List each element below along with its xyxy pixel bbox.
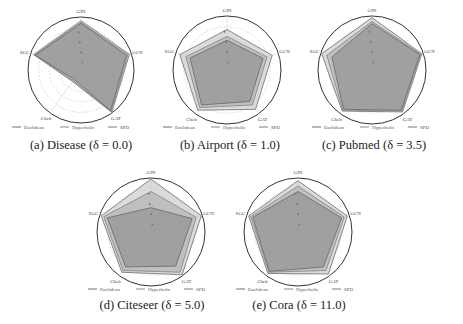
axis-label-gat: GAT (329, 279, 339, 284)
radial-tick-marker (150, 213, 152, 215)
caption-pubmed: (c) Pubmed (δ = 3.5) (305, 138, 443, 153)
radial-tick-marker (148, 193, 150, 195)
radial-tick-marker (226, 51, 228, 53)
radar-chart-pubmed: GINGCNGATChebSGCEuclideanHyperbolicSPD (305, 0, 463, 140)
radial-tick-marker (369, 31, 371, 33)
radar-chart-citeseer: GINGCNGATChebSGCEuclideanHyperbolicSPD (80, 162, 240, 302)
radial-tick-marker (297, 213, 299, 215)
axis-label-sgc: SGC (20, 50, 30, 55)
legend-label-spd: SPD (420, 125, 430, 130)
legend-label-euclidean: Euclidean (324, 125, 344, 130)
axis-label-gcn: GCN (350, 211, 361, 216)
radial-tick-marker (372, 61, 374, 63)
legend-label-spd: SPD (196, 287, 206, 292)
radial-tick-marker (80, 52, 82, 54)
radial-tick-marker (295, 193, 297, 195)
axis-label-gin: GIN (77, 9, 86, 14)
axis-label-gat: GAT (403, 117, 413, 122)
axis-label-gcn: GCN (424, 49, 435, 54)
radial-tick-marker (151, 223, 153, 225)
axis-label-gcn: GCN (203, 211, 214, 216)
axis-label-sgc: SGC (89, 211, 99, 216)
axis-label-cheb: Cheb (110, 279, 121, 284)
radial-tick-marker (298, 223, 300, 225)
radial-tick-marker (225, 41, 227, 43)
axis-label-cheb: Cheb (41, 116, 52, 121)
axis-label-sgc: SGC (310, 49, 320, 54)
legend-label-euclidean: Euclidean (175, 125, 195, 130)
axis-label-gin: GIN (147, 170, 156, 175)
axis-label-sgc: SGC (165, 49, 175, 54)
legend-label-spd: SPD (344, 287, 354, 292)
legend-label-euclidean: Euclidean (24, 125, 44, 130)
radial-tick-marker (78, 31, 80, 33)
axis-label-gin: GIN (223, 8, 232, 13)
caption-airport: (b) Airport (δ = 1.0) (155, 138, 305, 153)
axis-label-gat: GAT (258, 117, 268, 122)
radar-panel-airport: GINGCNGATChebSGCEuclideanHyperbolicSPD (… (155, 0, 305, 160)
caption-cora: (e) Cora (δ = 11.0) (230, 298, 368, 313)
axis-label-gat: GAT (111, 116, 121, 121)
legend-label-spd: SPD (120, 125, 130, 130)
axis-label-gcn: GCN (279, 49, 290, 54)
radial-tick-marker (79, 41, 81, 43)
axis-label-gin: GIN (294, 170, 303, 175)
radial-tick-marker (149, 203, 151, 205)
radar-panel-citeseer: GINGCNGATChebSGCEuclideanHyperbolicSPD (… (80, 162, 240, 324)
legend-label-hyperbolic: Hyperbolic (296, 287, 319, 292)
radial-tick-marker (81, 62, 83, 64)
caption-citeseer: (d) Citeseer (δ = 5.0) (80, 298, 224, 313)
axis-label-cheb: Cheb (257, 279, 268, 284)
radar-panel-cora: GINGCNGATChebSGCEuclideanHyperbolicSPD (… (230, 162, 390, 324)
legend-label-hyperbolic: Hyperbolic (72, 125, 95, 130)
radial-tick-marker (224, 31, 226, 33)
legend-label-hyperbolic: Hyperbolic (148, 287, 171, 292)
legend-label-hyperbolic: Hyperbolic (372, 125, 395, 130)
legend-label-hyperbolic: Hyperbolic (223, 125, 246, 130)
radar-panel-disease: GINGCNGATChebSGCEuclideanHyperbolicSPD (… (0, 0, 160, 160)
axis-label-gat: GAT (182, 279, 192, 284)
axis-label-gcn: GCN (132, 50, 143, 55)
radar-chart-airport: GINGCNGATChebSGCEuclideanHyperbolicSPD (155, 0, 305, 140)
axis-label-gin: GIN (368, 8, 377, 13)
caption-disease: (a) Disease (δ = 0.0) (0, 138, 162, 153)
axis-label-cheb: Cheb (331, 117, 342, 122)
radial-tick-marker (371, 51, 373, 53)
radial-tick-marker (227, 61, 229, 63)
radial-tick-marker (296, 203, 298, 205)
legend-label-euclidean: Euclidean (248, 287, 268, 292)
axis-label-sgc: SGC (236, 211, 246, 216)
radial-tick-marker (370, 41, 372, 43)
legend-label-euclidean: Euclidean (100, 287, 120, 292)
radar-chart-disease: GINGCNGATChebSGCEuclideanHyperbolicSPD (0, 0, 160, 140)
legend-label-spd: SPD (271, 125, 281, 130)
axis-label-cheb: Cheb (186, 117, 197, 122)
radar-panel-pubmed: GINGCNGATChebSGCEuclideanHyperbolicSPD (… (305, 0, 463, 160)
radar-chart-cora: GINGCNGATChebSGCEuclideanHyperbolicSPD (230, 162, 390, 302)
